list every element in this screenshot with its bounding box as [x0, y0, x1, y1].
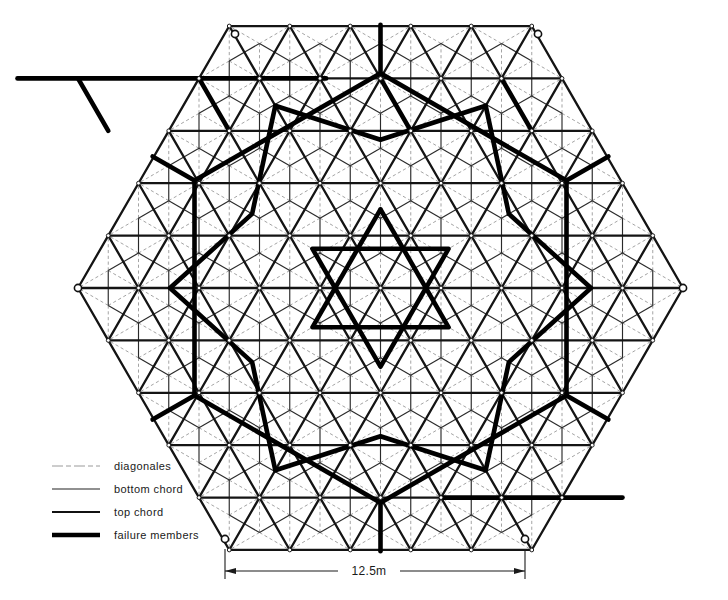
top-chord-node	[167, 129, 171, 133]
top-chord-member	[78, 236, 108, 288]
top-chord-node	[560, 77, 564, 81]
top-chord-node	[409, 338, 413, 342]
top-chord-member	[260, 26, 290, 78]
top-chord-node	[167, 234, 171, 238]
top-chord-node	[530, 129, 534, 133]
top-chord-member	[471, 498, 501, 550]
top-chord-member	[653, 288, 683, 340]
top-chord-member	[260, 236, 290, 288]
top-chord-node	[348, 129, 352, 133]
failure-member-radial-strut	[567, 156, 609, 180]
top-chord-node	[500, 286, 504, 290]
top-chord-member	[350, 288, 380, 340]
top-chord-node	[439, 77, 443, 81]
top-chord-node	[227, 548, 231, 552]
top-chord-member	[381, 183, 411, 235]
top-chord-member	[260, 288, 290, 340]
top-chord-node	[439, 391, 443, 395]
top-chord-node	[227, 443, 231, 447]
top-chord-member	[441, 498, 471, 550]
top-chord-member	[350, 498, 380, 550]
top-chord-member	[381, 498, 411, 550]
top-chord-node	[197, 181, 201, 185]
top-chord-member	[532, 445, 562, 497]
support-node-4	[521, 535, 528, 542]
top-chord-member	[471, 183, 501, 235]
top-chord-member	[290, 26, 320, 78]
failure-member-stub	[78, 78, 108, 130]
top-chord-node	[379, 391, 383, 395]
top-chord-node	[227, 24, 231, 28]
top-chord-member	[290, 288, 320, 340]
top-chord-node	[288, 443, 292, 447]
top-chord-node	[530, 24, 534, 28]
top-chord-member	[592, 288, 622, 340]
top-chord-member	[229, 498, 259, 550]
top-chord-member	[381, 340, 411, 392]
top-chord-member	[623, 183, 653, 235]
top-chord-member	[290, 183, 320, 235]
top-chord-node	[439, 181, 443, 185]
top-chord-node	[500, 391, 504, 395]
top-chord-member	[229, 78, 259, 130]
top-chord-node	[651, 338, 655, 342]
top-chord-node	[469, 443, 473, 447]
top-chord-node	[500, 496, 504, 500]
top-chord-member	[532, 498, 562, 550]
top-chord-node	[409, 24, 413, 28]
top-chord-node	[348, 24, 352, 28]
top-chord-member	[623, 288, 653, 340]
top-chord-node	[106, 234, 110, 238]
top-chord-member	[199, 288, 229, 340]
top-chord-node	[651, 234, 655, 238]
top-chord-node	[197, 496, 201, 500]
top-chord-member	[411, 131, 441, 183]
top-chord-member	[350, 236, 380, 288]
top-chord-node	[227, 234, 231, 238]
dimension-arrowhead-2	[514, 568, 525, 574]
top-chord-member	[199, 183, 229, 235]
top-chord-node	[530, 234, 534, 238]
top-chord-member	[108, 236, 138, 288]
truss-figure: .diag { stroke:#8d8d8d; stroke-width:0.8…	[0, 0, 728, 600]
top-chord-node	[530, 338, 534, 342]
top-chord-node	[258, 181, 262, 185]
top-chord-node	[590, 129, 594, 133]
top-chord-member	[320, 183, 350, 235]
top-chord-member	[320, 340, 350, 392]
top-chord-node	[500, 77, 504, 81]
top-chord-member	[441, 183, 471, 235]
top-chord-member	[441, 26, 471, 78]
top-chord-member	[441, 236, 471, 288]
top-chord-member	[532, 236, 562, 288]
legend-label-top_chord: top chord	[114, 506, 163, 518]
dimension-label: 12.5m	[352, 564, 387, 578]
top-chord-node	[227, 338, 231, 342]
top-chord-member	[290, 498, 320, 550]
top-chord-member	[411, 288, 441, 340]
top-chord-member	[532, 288, 562, 340]
top-chord-node	[197, 77, 201, 81]
top-chord-member	[108, 183, 138, 235]
top-chord-member	[78, 288, 108, 340]
top-chord-node	[348, 443, 352, 447]
failure-member-stub	[199, 78, 229, 130]
top-chord-member	[381, 288, 411, 340]
top-chord-node	[530, 443, 534, 447]
support-node-6	[74, 284, 81, 291]
top-chord-member	[471, 288, 501, 340]
top-chord-member	[411, 340, 441, 392]
top-chord-node	[560, 496, 564, 500]
top-chord-member	[229, 288, 259, 340]
top-chord-node	[379, 496, 383, 500]
top-chord-node	[409, 443, 413, 447]
top-chord-node	[621, 181, 625, 185]
top-chord-member	[229, 445, 259, 497]
top-chord-member	[139, 340, 169, 392]
top-chord-node	[590, 234, 594, 238]
top-chord-member	[502, 26, 532, 78]
top-chord-member	[592, 183, 622, 235]
top-chord-node	[197, 286, 201, 290]
top-chord-member	[441, 131, 471, 183]
top-chord-member	[592, 340, 622, 392]
